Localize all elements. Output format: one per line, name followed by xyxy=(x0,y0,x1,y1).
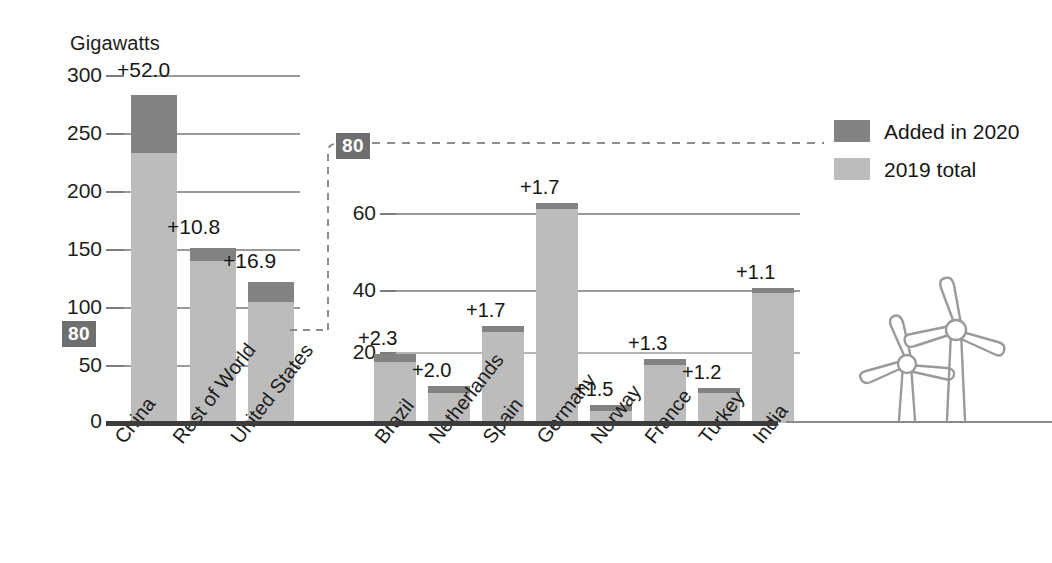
wind-turbines-illustration xyxy=(885,282,1052,427)
ytick-dash-150 xyxy=(106,249,124,251)
y-axis-title: Gigawatts xyxy=(70,32,160,55)
ytick-label-150: 150 xyxy=(44,238,102,259)
ytick-dash-200 xyxy=(106,191,124,193)
ytick-label-300: 300 xyxy=(44,64,102,85)
bar-china[interactable] xyxy=(131,95,177,423)
inset-gridline-40 xyxy=(384,290,800,292)
ytick-dash-50 xyxy=(106,365,124,367)
inset-gridline-60 xyxy=(384,213,800,215)
legend-item-2019-total[interactable]: 2019 total xyxy=(834,158,976,180)
bar-value-united-states: +16.9 xyxy=(223,250,276,271)
bar-value-france: +1.3 xyxy=(628,333,667,353)
inset-ytick-label-60: 60 xyxy=(330,202,376,223)
wind-turbine-right xyxy=(905,278,1005,420)
bar-value-turkey: +1.2 xyxy=(682,362,721,382)
bar-segment-added-brazil xyxy=(374,354,416,362)
inset-gridline-20 xyxy=(384,352,800,354)
legend-label-2019-total: 2019 total xyxy=(884,159,976,180)
chart-figure: Gigawatts 300 250 200 150 100 50 0 80 +5… xyxy=(0,0,1052,563)
bar-segment-added-china xyxy=(131,95,177,153)
gridline-300 xyxy=(152,75,300,77)
bar-segment-added-united-states xyxy=(248,282,294,302)
bar-value-germany: +1.7 xyxy=(520,177,559,197)
ytick-label-250: 250 xyxy=(44,122,102,143)
bar-value-spain: +1.7 xyxy=(466,300,505,320)
marker-badge-80-main: 80 xyxy=(62,321,96,347)
legend-label-added-in-2020: Added in 2020 xyxy=(884,121,1019,142)
bar-value-rest-of-world: +10.8 xyxy=(167,216,220,237)
bar-value-india: +1.1 xyxy=(736,262,775,282)
inset-ytick-dash-40 xyxy=(380,290,396,292)
ytick-label-50: 50 xyxy=(44,354,102,375)
bar-value-china: +52.0 xyxy=(117,59,170,80)
ytick-label-200: 200 xyxy=(44,180,102,201)
inset-ytick-label-40: 40 xyxy=(330,279,376,300)
legend-item-added-in-2020[interactable]: Added in 2020 xyxy=(834,120,1019,142)
legend-swatch-2019-total xyxy=(834,158,870,180)
x-axis-baseline xyxy=(106,421,778,426)
bar-segment-2019-china xyxy=(131,153,177,423)
bar-value-netherlands: +2.0 xyxy=(412,360,451,380)
ytick-dash-100 xyxy=(106,307,124,309)
ytick-dash-250 xyxy=(106,133,124,135)
inset-ytick-dash-60 xyxy=(380,213,396,215)
ytick-label-0: 0 xyxy=(44,410,102,431)
main-panel: Gigawatts 300 250 200 150 100 50 0 80 +5… xyxy=(0,0,330,563)
bar-value-brazil: +2.3 xyxy=(358,328,397,348)
legend-swatch-added-in-2020 xyxy=(834,120,870,142)
inset-panel: 60 40 20 +2.3 +2.0 +1.7 +1.7 xyxy=(330,0,800,563)
ytick-label-100: 100 xyxy=(44,296,102,317)
